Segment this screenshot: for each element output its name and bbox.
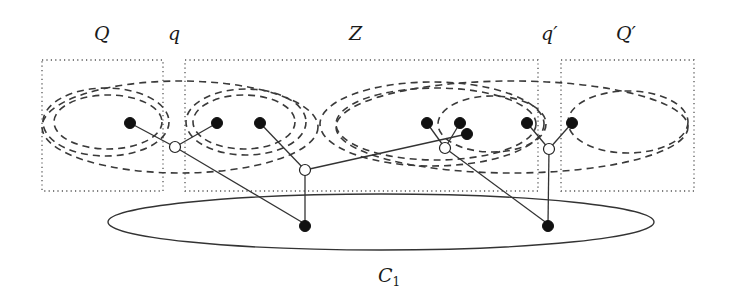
dashed-ellipse-left-outer	[42, 81, 318, 173]
edge	[175, 123, 217, 147]
label-Q: Q	[94, 22, 110, 44]
filled-node	[462, 129, 473, 140]
edge	[548, 149, 549, 224]
label-q: q	[168, 22, 180, 44]
filled-node-C1	[300, 221, 311, 232]
dashed-ellipse-Q-inner	[54, 95, 162, 149]
label-C1-main: C	[378, 264, 393, 286]
label-q-prime: q′	[541, 22, 558, 44]
dashed-ellipse-Z-inner	[336, 88, 536, 160]
dashed-ellipse-Q-outer	[43, 88, 169, 156]
filled-node	[125, 118, 136, 129]
dashed-ellipse-Q-prime	[568, 91, 688, 153]
cluster-C1-ellipse	[108, 194, 654, 250]
dashed-ellipse-q-inner	[193, 95, 295, 149]
edge	[175, 147, 305, 224]
label-Q-prime: Q′	[616, 22, 637, 44]
filled-node	[455, 118, 466, 129]
region-Z-box	[185, 60, 538, 191]
open-node	[300, 165, 311, 176]
filled-node	[422, 118, 433, 129]
filled-node	[567, 118, 578, 129]
diagram-canvas: Q q Z q′ Q′ C1	[0, 0, 738, 306]
region-Q-box	[42, 60, 163, 191]
filled-node	[212, 118, 223, 129]
open-node	[544, 144, 555, 155]
label-C1: C1	[378, 264, 400, 289]
label-C1-subscript: 1	[393, 275, 401, 289]
open-node	[170, 142, 181, 153]
filled-node	[522, 118, 533, 129]
region-Q-prime-box	[561, 60, 694, 191]
dashed-ellipse-q-outer	[186, 89, 306, 155]
label-Z: Z	[348, 22, 363, 44]
open-node	[440, 143, 451, 154]
filled-node-C1	[543, 221, 554, 232]
edge	[445, 148, 548, 224]
filled-node	[255, 118, 266, 129]
